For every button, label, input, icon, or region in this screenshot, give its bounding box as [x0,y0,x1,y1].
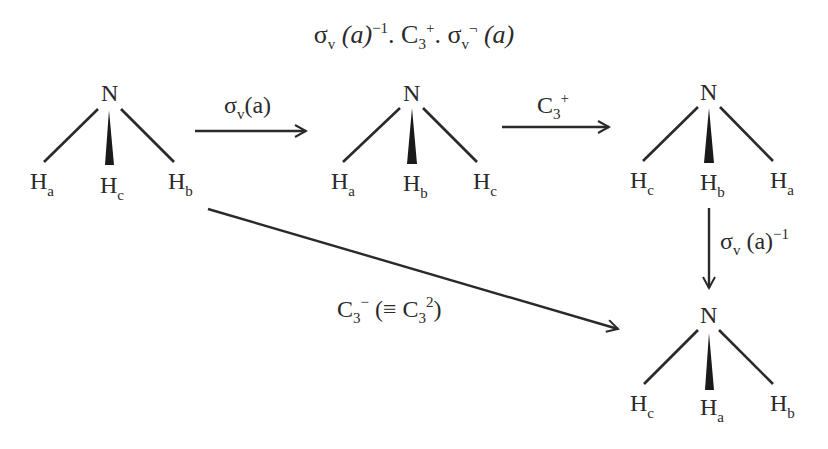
hydrogen-left: Ha [30,168,54,200]
label-c3-plus: C3+ [537,90,569,123]
h-label: H [100,172,117,198]
sigma-symbol: σ [314,20,328,49]
title-c: . C [388,20,418,49]
hydrogen-left: Ha [331,168,355,200]
hydrogen-right: Hb [770,390,795,422]
hydrogen-center: Hb [403,170,428,202]
end: ) [434,296,442,322]
label-sigma-v-a-inverse: σv (a)−1 [720,226,789,259]
hydrogen-center: Hc [100,172,124,204]
h-label: H [331,168,348,194]
sup: − [361,294,369,310]
hydrogen-right: Hb [168,168,193,200]
sym: C [337,296,353,322]
h-subscript: a [787,182,794,198]
sup: + [561,90,569,106]
sub2: 3 [419,310,427,326]
title-a2: (a) [477,20,514,49]
hydrogen-center: Hb [700,169,725,201]
subscript-v: v [328,36,336,52]
h-label: H [770,390,787,416]
sup2: 2 [426,294,434,310]
mid: (≡ C [369,296,419,322]
hydrogen-center: Ha [700,394,724,426]
sym: C [537,92,553,118]
molecule-3-bonds [643,107,773,163]
molecule-2-bonds [343,108,477,164]
subscript-3: 3 [418,36,426,52]
title-sigma2: . σ [434,20,461,49]
operation-product-title: σv (a)−1. C3+. σv¬ (a) [0,20,828,53]
hydrogen-right: Ha [770,167,794,199]
nitrogen-atom: N [101,80,118,107]
h-subscript: b [420,185,428,201]
h-subscript: a [348,183,355,199]
h-label: H [700,394,717,420]
h-subscript: b [185,183,193,199]
h-subscript: a [47,183,54,199]
hydrogen-right: Hc [473,168,497,200]
h-subscript: c [647,405,654,421]
h-label: H [473,168,490,194]
hydrogen-left: Hc [630,167,654,199]
h-subscript: b [717,184,725,200]
nitrogen-atom: N [700,79,717,106]
h-label: H [403,170,420,196]
sup: −1 [773,226,789,242]
h-subscript: b [787,405,795,421]
h-subscript: c [117,187,124,203]
hydrogen-left: Hc [630,390,654,422]
h-subscript: a [717,409,724,425]
title-a: (a) [342,20,372,49]
h-label: H [700,169,717,195]
label-c3-minus: C3− (≡ C32) [337,294,442,327]
sub: 3 [553,106,561,122]
sym: σ [720,228,733,254]
nitrogen-atom: N [700,302,717,329]
h-label: H [770,167,787,193]
sym: σ [224,92,237,118]
h-label: H [168,168,185,194]
sub: 3 [353,310,361,326]
diagram-lines [0,0,828,449]
subscript-v2: v [461,36,469,52]
h-subscript: c [647,182,654,198]
h-label: H [30,168,47,194]
molecule-4-bonds [644,330,773,390]
h-label: H [630,167,647,193]
superscript-inverse: −1 [372,20,388,36]
molecule-1-bonds [44,109,174,165]
h-label: H [630,390,647,416]
label-sigma-v-a: σv(a) [224,92,271,123]
h-subscript: c [490,183,497,199]
rest: (a) [244,92,271,118]
rest: (a) [740,228,773,254]
nitrogen-atom: N [403,80,420,107]
